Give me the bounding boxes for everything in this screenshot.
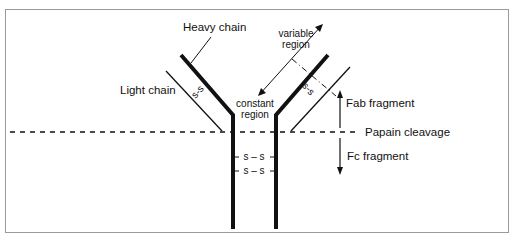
- heavy-chain-pointer: [191, 37, 211, 63]
- fab-fragment-label: Fab fragment: [346, 97, 415, 109]
- variable-region-label-2: region: [282, 39, 310, 50]
- light-chain-left: [166, 71, 222, 131]
- constant-region-label-2: region: [241, 109, 269, 120]
- light-chain-right: [291, 67, 350, 131]
- disulfide-hinge-2: s – s: [243, 165, 264, 176]
- antibody-diagram: Heavy chain Light chain variable region …: [0, 0, 519, 242]
- fc-fragment-label: Fc fragment: [347, 150, 409, 162]
- variable-region-label-1: variable: [278, 28, 313, 39]
- heavy-chain-left: [181, 55, 233, 229]
- papain-cleavage-label: Papain cleavage: [365, 126, 450, 138]
- fc-arrowhead: [337, 167, 343, 175]
- heavy-chain-right: [276, 55, 328, 229]
- disulfide-hinge-1: s – s: [243, 151, 264, 162]
- light-chain-label: Light chain: [120, 84, 176, 96]
- constant-region-label-1: constant: [236, 98, 274, 109]
- fab-arrowhead: [337, 90, 343, 98]
- heavy-chain-label: Heavy chain: [183, 21, 246, 33]
